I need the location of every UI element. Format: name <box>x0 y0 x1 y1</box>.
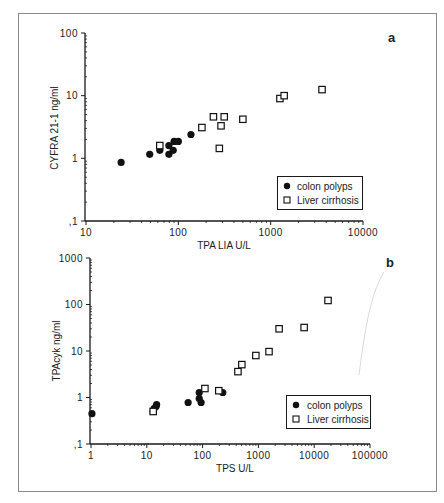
x-axis-title-b: TPS U/L <box>216 463 254 474</box>
data-point-liver-cirrhosis <box>253 352 259 358</box>
x-tick-label: 10 <box>141 450 153 461</box>
data-point-liver-cirrhosis <box>216 388 222 394</box>
y-tick-label: 100 <box>65 299 83 310</box>
y-axis-title-a: CYFRA 21-1 ng/ml <box>49 86 60 169</box>
y-tick-label: 1 <box>72 153 78 164</box>
x-tick-label: 10 <box>80 227 92 238</box>
data-point-liver-cirrhosis <box>210 114 216 120</box>
y-tick-label: 10 <box>66 90 78 101</box>
x-tick-label: 100000 <box>352 450 388 461</box>
legend-marker-colon-polyps-a <box>284 183 290 189</box>
legend-label-liver-cirrhosis-a: Liver cirrhosis <box>297 195 359 206</box>
data-point-colon-polyps <box>170 147 177 154</box>
x-tick-label: 1 <box>88 450 94 461</box>
data-point-liver-cirrhosis <box>235 368 241 374</box>
legend-b: colon polyps Liver cirrhosis <box>287 396 371 429</box>
data-point-colon-polyps <box>175 138 182 145</box>
data-point-liver-cirrhosis <box>218 123 224 129</box>
data-point-liver-cirrhosis <box>240 116 246 122</box>
data-point-liver-cirrhosis <box>221 114 227 120</box>
panel-label-b: b <box>386 255 394 270</box>
data-point-colon-polyps <box>187 131 194 138</box>
y-tick-label: ,1 <box>74 439 83 450</box>
y-tick-label: 100 <box>60 28 78 39</box>
x-axis-title-a: TPA LIA U/L <box>197 240 251 251</box>
data-point-liver-cirrhosis <box>157 142 163 148</box>
data-point-liver-cirrhosis <box>150 408 156 414</box>
data-point-liver-cirrhosis <box>199 124 205 130</box>
y-tick-label: 1000 <box>59 253 83 264</box>
data-point-liver-cirrhosis <box>325 297 331 303</box>
data-point-colon-polyps <box>88 410 95 417</box>
data-point-colon-polyps <box>146 151 153 158</box>
legend-label-colon-polyps-a: colon polyps <box>297 181 353 192</box>
data-point-liver-cirrhosis <box>216 145 222 151</box>
data-point-liver-cirrhosis <box>202 385 208 391</box>
data-point-colon-polyps <box>153 401 160 408</box>
data-point-colon-polyps <box>198 399 205 406</box>
y-axis-title-b: TPAcyk ng/ml <box>51 321 62 382</box>
x-tick-label: 10000 <box>299 450 329 461</box>
x-tick-label: 1000 <box>259 227 283 238</box>
legend-label-liver-cirrhosis-b: Liver cirrhosis <box>307 414 369 425</box>
x-tick-label: 10000 <box>348 227 378 238</box>
legend-marker-liver-cirrhosis-b <box>293 416 299 422</box>
data-point-colon-polyps <box>185 399 192 406</box>
data-point-liver-cirrhosis <box>276 326 282 332</box>
data-point-liver-cirrhosis <box>281 92 287 98</box>
data-point-liver-cirrhosis <box>301 324 307 330</box>
x-tick-label: 100 <box>194 450 212 461</box>
data-point-liver-cirrhosis <box>266 348 272 354</box>
figure: a CYFRA 21-1 ng/ml TPA LIA U/L 101001000… <box>0 0 444 503</box>
legend-label-colon-polyps-b: colon polyps <box>307 400 363 411</box>
data-point-liver-cirrhosis <box>319 86 325 92</box>
x-tick-label: 1000 <box>246 450 270 461</box>
legend-a: colon polyps Liver cirrhosis <box>278 177 363 210</box>
y-tick-label: 10 <box>71 346 83 357</box>
data-point-liver-cirrhosis <box>239 361 245 367</box>
y-tick-label: ,1 <box>69 216 78 227</box>
x-tick-label: 100 <box>169 227 187 238</box>
legend-marker-colon-polyps-b <box>293 402 299 408</box>
panel-label-a: a <box>388 30 396 45</box>
data-point-colon-polyps <box>118 159 125 166</box>
y-tick-label: 1 <box>77 392 83 403</box>
legend-marker-liver-cirrhosis-a <box>284 197 290 203</box>
